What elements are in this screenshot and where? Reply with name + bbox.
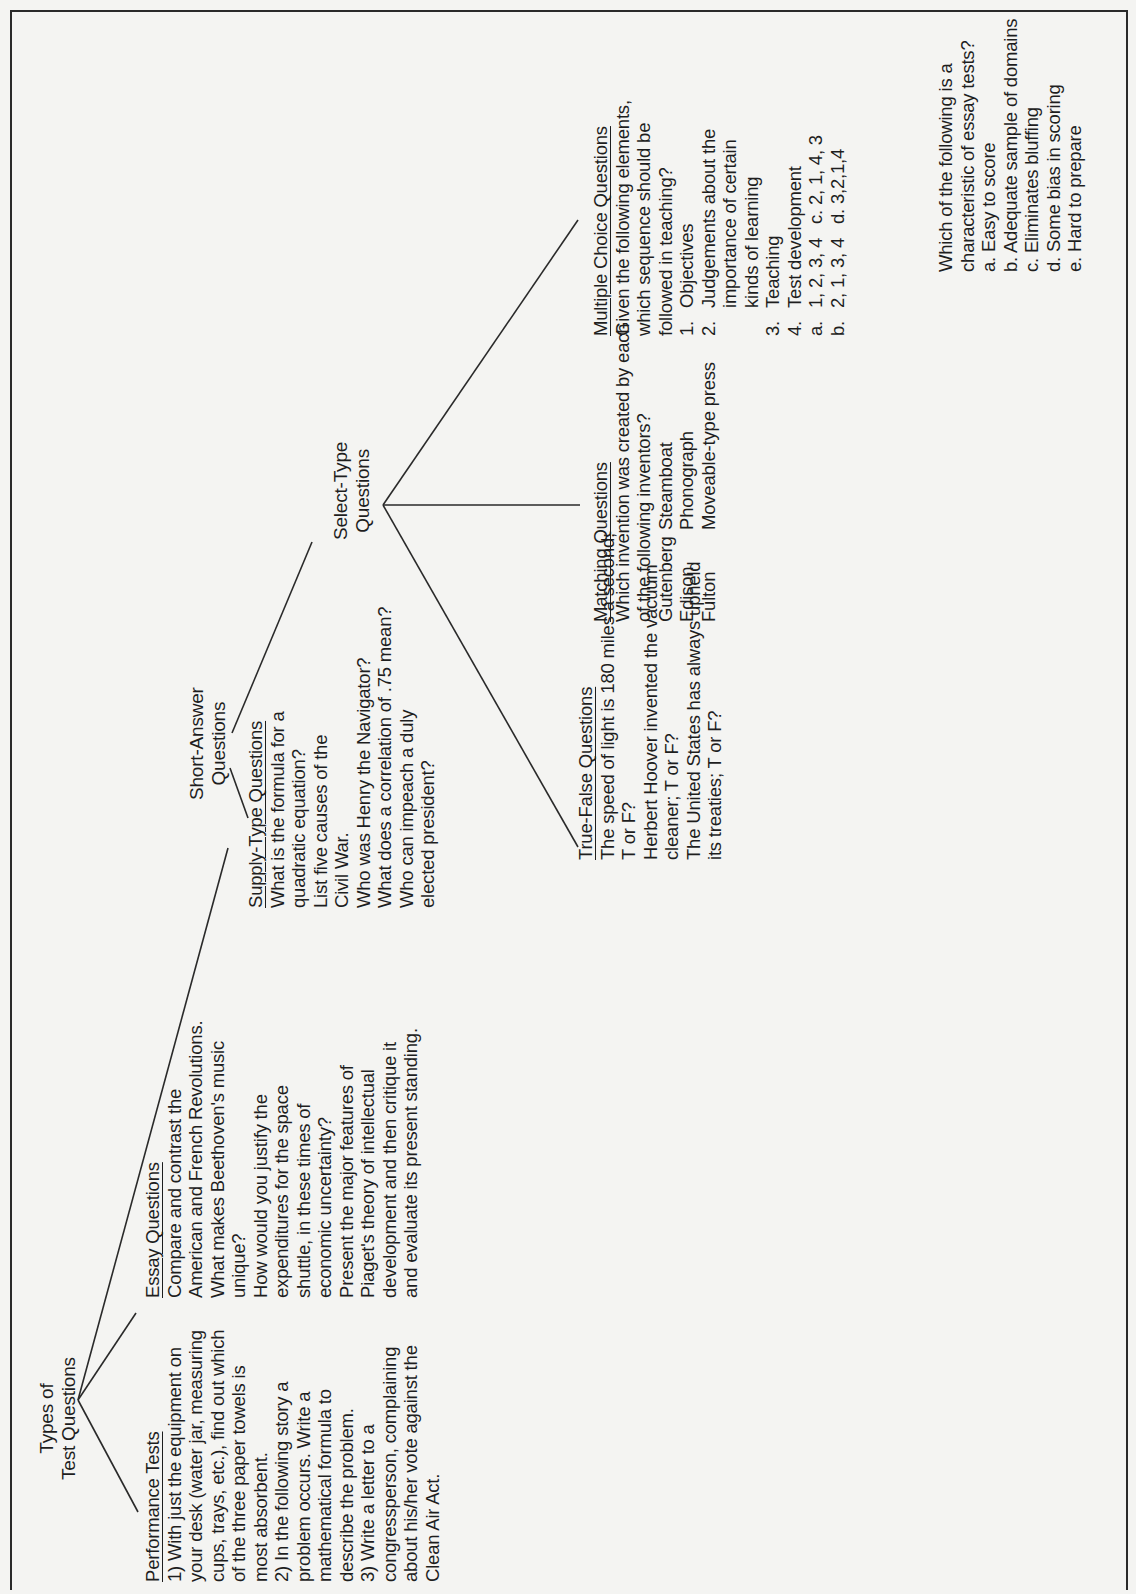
mc-item-num: 3. [762, 308, 784, 336]
mc-item: 1.Objectives [676, 100, 698, 336]
short-answer-line-1: Short-Answer [186, 687, 208, 800]
text-line: economic uncertainty? [314, 1021, 336, 1298]
multiple-choice-heading: Multiple Choice Questions [590, 100, 612, 336]
text-line: congressperson, complaining [379, 1330, 401, 1582]
text-line: c. Eliminates bluffing [1021, 19, 1043, 272]
matching-pair: GutenbergSteamboat [655, 324, 677, 622]
mc-item-text: Judgements about the [698, 129, 719, 308]
mc-item-text: Objectives [676, 224, 697, 308]
matching-heading: Matching Questions [590, 324, 612, 622]
text-line: shuttle, in these times of [293, 1021, 315, 1298]
text-line: b. Adequate sample of domains [1000, 19, 1022, 272]
root-node: Types of Test Questions [36, 1357, 80, 1480]
invention: Phonograph [676, 431, 698, 530]
text-line: 3) Write a letter to a [357, 1330, 379, 1582]
text-line: problem occurs. Write a [293, 1330, 315, 1582]
text-line: What is the formula for a [267, 607, 289, 908]
text-line: What makes Beethoven's music [207, 1021, 229, 1298]
performance-tests-heading: Performance Tests [142, 1330, 164, 1582]
text-line: What does a correlation of .75 mean? [374, 607, 396, 908]
select-type-line-2: Questions [352, 442, 374, 540]
mc-item-num: 1. [676, 308, 698, 336]
text-line: which sequence should be [633, 100, 655, 336]
mc-option-letter: b. [827, 308, 849, 336]
text-line: Civil War. [331, 607, 353, 908]
short-answer-node: Short-Answer Questions [186, 687, 230, 800]
text-line: Who was Henry the Navigator? [353, 607, 375, 908]
text-line: cups, trays, etc.), find out which [207, 1330, 229, 1582]
select-type-line-1: Select-Type [330, 442, 352, 540]
mc-item: 2.Judgements about the [698, 100, 720, 336]
text-line: characteristic of essay tests? [957, 19, 979, 272]
mc-option-alt: d. 3,2,1,4 [827, 149, 848, 224]
matching-pair: FultonMoveable-type press [698, 324, 720, 622]
mc-item-text: importance of certain [719, 139, 740, 308]
text-line: Clean Air Act. [422, 1330, 444, 1582]
text-line: describe the problem. [336, 1330, 358, 1582]
text-line: How would you justify the [250, 1021, 272, 1298]
text-line: Given the following elements, [612, 100, 634, 336]
text-line: 2) In the following story a [271, 1330, 293, 1582]
inventor: Fulton [698, 530, 720, 622]
mc-item-text: Teaching [762, 236, 783, 308]
root-line-1: Types of [36, 1357, 58, 1480]
mc-option-row: b.2, 1, 3, 4d. 3,2,1,4 [827, 100, 849, 336]
inventor: Edison [676, 530, 698, 622]
supply-type-heading: Supply-Type Questions [245, 607, 267, 908]
text-line: Which invention was created by each [612, 324, 634, 622]
performance-tests-block: Performance Tests 1) With just the equip… [142, 1330, 443, 1582]
text-line: and evaluate its present standing. [400, 1021, 422, 1298]
multiple-choice-block: Multiple Choice Questions Given the foll… [590, 100, 848, 336]
root-line-2: Test Questions [58, 1357, 80, 1480]
mc-item: 3.Teaching [762, 100, 784, 336]
essay-test-question-block: Which of the following is a characterist… [935, 19, 1086, 272]
text-line: quadratic equation? [288, 607, 310, 908]
mc-item: 4.Test development [784, 100, 806, 336]
invention: Moveable-type press [698, 362, 720, 530]
text-line: Compare and contrast the [164, 1021, 186, 1298]
mc-item-num: 4. [784, 308, 806, 336]
text-line: followed in teaching? [655, 100, 677, 336]
mc-option-row: a.1, 2, 3, 4c. 2, 1, 4, 3 [805, 100, 827, 336]
text-line: about his/her vote against the [400, 1330, 422, 1582]
text-line: elected president? [417, 607, 439, 908]
text-line: development and then critique it [379, 1021, 401, 1298]
supply-type-block: Supply-Type Questions What is the formul… [245, 607, 439, 908]
mc-option-text: 2, 1, 3, 4 [827, 224, 849, 308]
mc-option-text: 1, 2, 3, 4 [805, 224, 827, 308]
essay-questions-heading: Essay Questions [142, 1021, 164, 1298]
mc-option-letter: a. [805, 308, 827, 336]
text-line: expenditures for the space [271, 1021, 293, 1298]
matching-pair: EdisonPhonograph [676, 324, 698, 622]
text-line: a. Easy to score [978, 19, 1000, 272]
text-line: e. Hard to prepare [1064, 19, 1086, 272]
text-line: List five causes of the [310, 607, 332, 908]
text-line: your desk (water jar, measuring [185, 1330, 207, 1582]
select-type-node: Select-Type Questions [330, 442, 374, 540]
mc-item-num: 2. [698, 308, 720, 336]
text-line: Present the major features of [336, 1021, 358, 1298]
text-line: most absorbent. [250, 1330, 272, 1582]
matching-block: Matching Questions Which invention was c… [590, 324, 719, 622]
mc-item: importance of certain [719, 100, 741, 336]
mc-item-num [719, 308, 741, 336]
text-line: 1) With just the equipment on [164, 1330, 186, 1582]
essay-questions-block: Essay Questions Compare and contrast the… [142, 1021, 422, 1298]
text-line: d. Some bias in scoring [1043, 19, 1065, 272]
mc-item-num [741, 308, 763, 336]
text-line: of the following inventors? [633, 324, 655, 622]
short-answer-line-2: Questions [208, 687, 230, 800]
invention: Steamboat [655, 442, 677, 530]
inventor: Gutenberg [655, 530, 677, 622]
text-line: Piaget's theory of intellectual [357, 1021, 379, 1298]
mc-item: kinds of learning [741, 100, 763, 336]
text-line: of the three paper towels is [228, 1330, 250, 1582]
mc-item-text: kinds of learning [741, 177, 762, 308]
text-line: unique? [228, 1021, 250, 1298]
text-line: Which of the following is a [935, 19, 957, 272]
mc-item-text: Test development [784, 166, 805, 308]
text-line: Who can impeach a duly [396, 607, 418, 908]
text-line: mathematical formula to [314, 1330, 336, 1582]
text-line: American and French Revolutions. [185, 1021, 207, 1298]
mc-option-alt: c. 2, 1, 4, 3 [805, 135, 826, 224]
